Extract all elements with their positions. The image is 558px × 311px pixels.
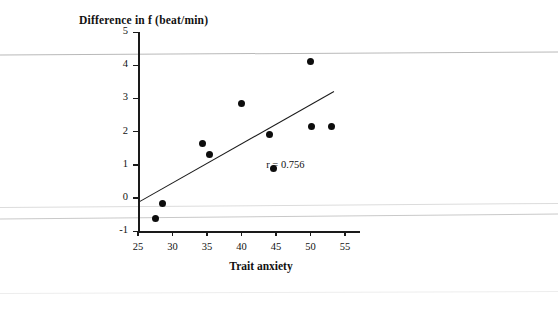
- x-tick: [172, 231, 173, 236]
- x-tick: [344, 231, 345, 236]
- data-point: [308, 123, 315, 130]
- x-tick: [137, 231, 138, 236]
- y-tick: [133, 65, 138, 66]
- y-tick: [133, 131, 138, 132]
- data-point: [328, 123, 335, 130]
- x-tick-label: 30: [160, 241, 186, 252]
- x-tick-label: 50: [298, 241, 324, 252]
- y-tick-label: 1: [108, 158, 128, 169]
- scan-line-mid: [0, 203, 558, 208]
- regression-line: [138, 91, 334, 203]
- data-point: [152, 215, 159, 222]
- data-point: [307, 58, 314, 65]
- y-tick: [133, 164, 138, 165]
- data-point: [199, 140, 206, 147]
- y-tick-label: 4: [108, 58, 128, 69]
- x-axis-title: Trait anxiety: [186, 260, 336, 272]
- data-point: [206, 151, 213, 158]
- data-point: [238, 100, 245, 107]
- y-tick-label: 2: [108, 125, 128, 136]
- x-tick: [275, 231, 276, 236]
- y-tick: [133, 197, 138, 198]
- x-tick: [310, 231, 311, 236]
- plot-title: Difference in f (beat/min): [79, 14, 208, 26]
- y-tick-label: 0: [108, 191, 128, 202]
- scan-line-lower: [0, 214, 558, 220]
- y-tick-label: 3: [108, 91, 128, 102]
- x-tick-label: 25: [125, 241, 151, 252]
- x-tick: [241, 231, 242, 236]
- y-tick: [133, 98, 138, 99]
- scan-line-top: [0, 52, 558, 56]
- x-tick-label: 45: [263, 241, 289, 252]
- data-point: [266, 131, 273, 138]
- correlation-annotation: r = 0.756: [266, 159, 304, 170]
- x-tick-label: 40: [229, 241, 255, 252]
- y-tick-label: 5: [108, 25, 128, 36]
- x-tick-label: 55: [332, 241, 358, 252]
- scan-line-bottom: [0, 291, 558, 294]
- y-tick-label: -1: [108, 224, 128, 235]
- x-tick: [206, 231, 207, 236]
- x-tick-label: 35: [194, 241, 220, 252]
- scatter-plot-figure: Difference in f (beat/min) -1012345 2530…: [0, 0, 558, 311]
- y-tick: [133, 32, 138, 33]
